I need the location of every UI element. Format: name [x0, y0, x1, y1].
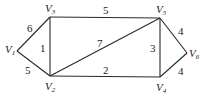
- vertex-v6: V6: [189, 47, 200, 61]
- weight-v5-v4: 3: [150, 42, 156, 54]
- vertex-v2: V2: [45, 80, 56, 94]
- svg-text:V1: V1: [5, 43, 15, 57]
- svg-text:V2: V2: [45, 80, 56, 94]
- edge-v2-v4: [50, 76, 160, 77]
- weight-v1-v2: 5: [25, 64, 31, 76]
- weight-v4-v6: 4: [178, 65, 184, 77]
- weighted-graph: 6 5 1 5 7 2 3 4 4 V1 V2 V3 V4 V5 V6: [0, 0, 206, 102]
- weight-v3-v2: 1: [40, 42, 46, 54]
- vertex-v5: V5: [156, 3, 167, 17]
- svg-text:V5: V5: [156, 3, 167, 17]
- svg-text:V4: V4: [156, 81, 167, 95]
- svg-text:V3: V3: [45, 2, 56, 16]
- vertex-v3: V3: [45, 2, 56, 16]
- edge-v1-v2: [17, 51, 50, 76]
- weight-v2-v4: 2: [103, 64, 109, 76]
- edge-v3-v5: [50, 17, 160, 18]
- weight-v1-v3: 6: [27, 22, 33, 34]
- weight-v2-v5: 7: [97, 37, 103, 49]
- vertex-v1: V1: [5, 43, 15, 57]
- vertex-v4: V4: [156, 81, 167, 95]
- weight-v3-v5: 5: [103, 4, 109, 16]
- weight-v5-v6: 4: [178, 25, 184, 37]
- svg-text:V6: V6: [189, 47, 200, 61]
